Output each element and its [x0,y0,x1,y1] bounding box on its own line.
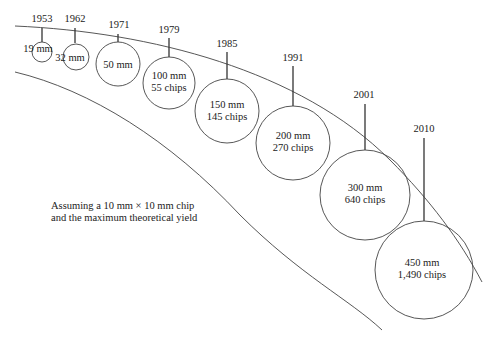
size-label: 450 mm [405,257,440,268]
wafer-1991: 1991 200 mm 270 chips [256,52,330,180]
wafer-diagram: 1953 19 mm 1962 32 mm 1971 50 mm 1979 10… [0,0,498,344]
wafer-1979: 1979 100 mm 55 chips [143,24,195,109]
size-label: 19 mm [23,43,52,54]
chips-label: 145 chips [207,111,248,122]
note-line-2: and the maximum theoretical yield [51,212,197,224]
wafer-1953: 1953 19 mm [23,13,52,62]
wafer-1971: 1971 50 mm [96,19,140,86]
year-label: 1962 [65,13,86,24]
year-label: 1985 [217,38,238,49]
size-label: 150 mm [210,99,245,110]
wafer-1985: 1985 150 mm 145 chips [195,38,259,143]
size-label: 50 mm [103,59,132,70]
year-label: 1991 [283,52,304,63]
year-label: 1953 [32,13,53,24]
year-label: 1971 [109,19,130,30]
chips-label: 55 chips [151,82,186,93]
wafer-2010: 2010 450 mm 1,490 chips [375,123,473,319]
year-label: 2010 [414,123,435,134]
size-label: 100 mm [152,70,187,81]
wafer-1962: 1962 32 mm [55,13,89,70]
outer-arc [15,26,482,282]
year-label: 1979 [159,24,180,35]
year-label: 2001 [354,89,375,100]
size-label: 32 mm [55,52,84,63]
wafer-2001: 2001 300 mm 640 chips [320,89,410,240]
chips-label: 1,490 chips [398,269,446,280]
chips-label: 270 chips [273,142,314,153]
note-line-1: Assuming a 10 mm × 10 mm chip [51,200,197,212]
size-label: 300 mm [348,182,383,193]
size-label: 200 mm [276,130,311,141]
assumption-note: Assuming a 10 mm × 10 mm chip and the ma… [51,200,197,224]
chips-label: 640 chips [345,194,386,205]
